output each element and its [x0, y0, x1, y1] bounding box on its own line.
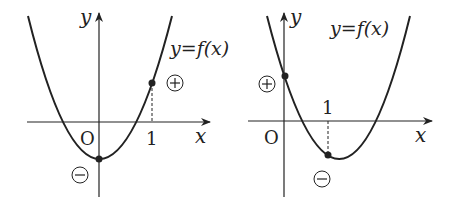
- point-at-zero: [282, 73, 289, 80]
- minus-sign-icon: [314, 171, 330, 187]
- plus-sign-icon: [259, 76, 275, 92]
- y-axis-label: y: [289, 5, 302, 29]
- point-at-one: [325, 152, 332, 159]
- origin-label: O: [80, 128, 95, 149]
- curve-label: y=f(x): [329, 17, 389, 39]
- y-axis-label: y: [79, 5, 92, 29]
- plus-sign-icon: [167, 75, 183, 91]
- tick-label-one: 1: [146, 128, 157, 149]
- minus-sign-icon: [72, 167, 88, 183]
- tick-label-one: 1: [322, 97, 333, 118]
- x-axis-label: x: [415, 123, 426, 147]
- figure: y x O 1 y=f(x) y x O 1 y=f(x): [0, 0, 450, 221]
- origin-label: O: [264, 127, 279, 148]
- point-at-zero: [96, 156, 103, 163]
- point-at-one: [149, 80, 156, 87]
- right-graph: y x O 1 y=f(x): [248, 5, 432, 197]
- curve-label: y=f(x): [169, 37, 229, 59]
- left-graph: y x O 1 y=f(x): [27, 5, 229, 197]
- x-axis-label: x: [195, 124, 206, 148]
